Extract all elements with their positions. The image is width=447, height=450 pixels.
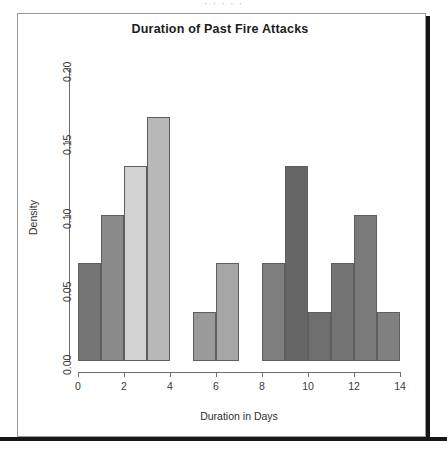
plot-page-frame: [17, 13, 426, 437]
y-axis-title: Density: [27, 200, 39, 235]
page-shadow-bottom-edge: [0, 437, 447, 441]
scan-artifact-text: · · · · ·: [0, 0, 447, 10]
x-axis-title: Duration in Days: [78, 410, 400, 422]
page-shadow-right-edge: [426, 16, 430, 441]
chart-title: Duration of Past Fire Attacks: [17, 22, 423, 36]
